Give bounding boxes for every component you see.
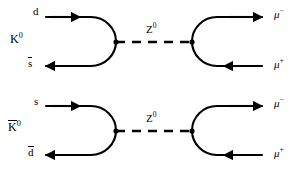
quark-loop-left bbox=[46, 106, 116, 155]
quark-label-incoming-bottom: s bbox=[34, 96, 38, 107]
z-boson-symbol-bottom: Z bbox=[146, 112, 153, 124]
lepton-label-bottom-negative: μ− bbox=[274, 96, 284, 109]
meson-label-top: K0 bbox=[10, 32, 23, 45]
lepton-label-top-negative: μ− bbox=[274, 7, 284, 20]
lepton-label-top-positive: μ+ bbox=[274, 57, 284, 70]
z-boson-label-bottom: Z0 bbox=[146, 111, 156, 124]
z-boson-charge-top: 0 bbox=[153, 21, 157, 30]
overbar-glyph bbox=[28, 57, 32, 58]
muon-charge: + bbox=[280, 145, 284, 154]
meson-charge-top: 0 bbox=[19, 31, 23, 40]
vertex-left bbox=[113, 39, 118, 44]
z-boson-charge-bottom: 0 bbox=[153, 110, 157, 119]
lepton-loop-right bbox=[192, 17, 262, 66]
lepton-loop-right bbox=[192, 106, 262, 155]
muon-charge: − bbox=[280, 6, 284, 15]
quark-label-outgoing-top: s bbox=[28, 58, 32, 69]
meson-symbol-top: K bbox=[10, 32, 19, 46]
lepton-label-bottom-positive: μ+ bbox=[274, 146, 284, 159]
antiquark-overbar-wrap-bottom: d bbox=[28, 147, 34, 158]
quark-symbol-outgoing-bottom: d bbox=[28, 146, 34, 158]
overbar-glyph bbox=[28, 146, 34, 147]
z-boson-label-top: Z0 bbox=[146, 22, 156, 35]
z-boson-symbol-top: Z bbox=[146, 23, 153, 35]
antimeson-overbar-wrap: K bbox=[8, 121, 17, 133]
vertex-left bbox=[113, 128, 118, 133]
antiquark-overbar-wrap-top: s bbox=[28, 58, 32, 69]
quark-loop-left bbox=[46, 17, 116, 66]
meson-label-bottom: K0 bbox=[8, 120, 21, 133]
overbar-glyph bbox=[8, 120, 17, 121]
muon-charge: + bbox=[280, 56, 284, 65]
meson-symbol-bottom: K bbox=[8, 120, 17, 134]
meson-charge-bottom: 0 bbox=[17, 119, 21, 128]
quark-label-outgoing-bottom: d bbox=[28, 147, 34, 158]
quark-symbol-outgoing-top: s bbox=[28, 57, 32, 69]
feynman-diagram-figure: d K0 s Z0 μ− μ+ s K0 d Z0 μ− μ+ bbox=[0, 0, 307, 179]
quark-label-incoming-top: d bbox=[33, 6, 39, 17]
muon-charge: − bbox=[280, 95, 284, 104]
